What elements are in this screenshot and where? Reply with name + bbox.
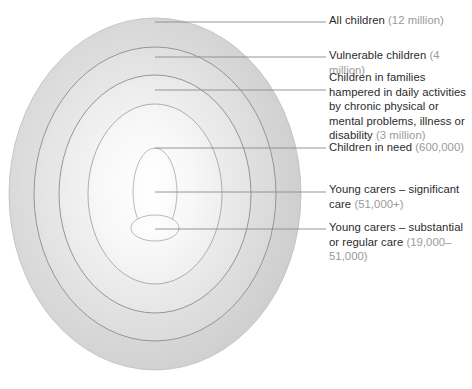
label-all-children: All children (12 million) [329,13,472,28]
label-young-carers-significant-care-value: (51,000+) [354,198,403,210]
label-children-in-need: Children in need (600,000) [329,140,472,155]
label-all-children-text: All children [329,14,385,26]
label-young-carers-substantial-or-regular-care: Young carers – substantial or regular ca… [329,220,472,264]
label-children-in-need-value: (600,000) [415,141,464,153]
onion-diagram: All children (12 million) Vulnerable chi… [0,0,472,389]
label-vulnerable-children-text: Vulnerable children [329,49,426,61]
label-young-carers-significant-care: Young carers – significant care (51,000+… [329,182,472,211]
labels-layer: All children (12 million) Vulnerable chi… [0,0,472,389]
label-all-children-value: (12 million) [388,14,444,26]
label-children-in-need-text: Children in need [329,141,412,153]
label-children-in-families-hampered: Children in families hampered in daily a… [329,70,472,143]
